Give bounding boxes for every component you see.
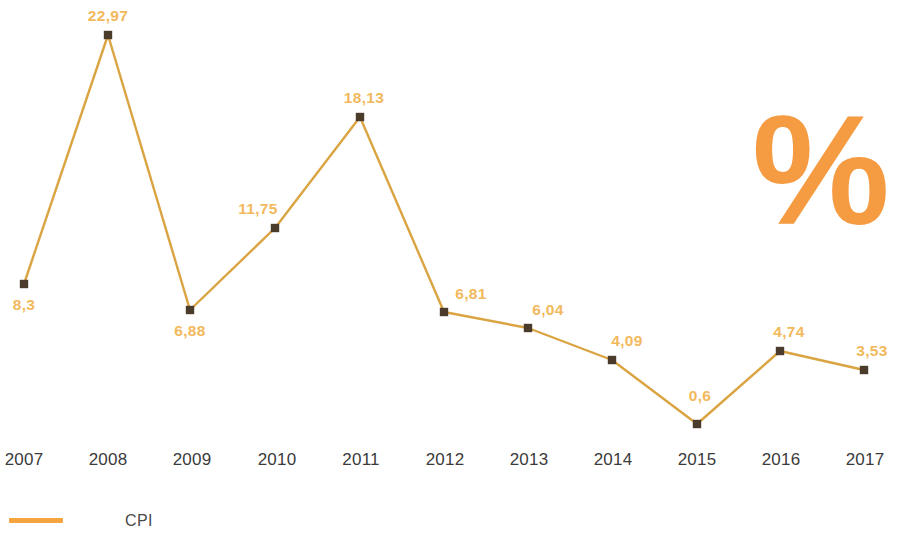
data-point-marker[interactable] [776, 347, 784, 355]
legend-label: CPI [125, 513, 153, 529]
legend-item-cpi[interactable]: CPI [0, 506, 153, 535]
cpi-series-line [24, 35, 864, 424]
data-point-marker[interactable] [693, 420, 701, 428]
data-point-value-label: 6,04 [532, 302, 563, 318]
data-point-value-label: 0,6 [689, 388, 711, 404]
data-point-value-label: 6,88 [174, 323, 205, 339]
legend-line-swatch [9, 518, 63, 523]
data-point-value-label: 22,97 [88, 8, 128, 24]
data-point-value-label: 11,75 [238, 201, 277, 217]
data-point-value-label: 4,74 [773, 324, 804, 340]
data-point-marker[interactable] [186, 306, 194, 314]
data-point-marker[interactable] [440, 308, 448, 316]
x-axis-year-label: 2010 [258, 449, 297, 470]
data-point-marker[interactable] [20, 280, 28, 288]
x-axis-year-label: 2015 [678, 449, 717, 470]
data-point-value-label: 8,3 [13, 297, 35, 313]
data-point-marker[interactable] [271, 224, 279, 232]
x-axis-year-label: 2012 [426, 449, 465, 470]
data-point-value-label: 4,09 [611, 333, 642, 349]
data-point-marker[interactable] [524, 324, 532, 332]
x-axis-year-label: 2017 [846, 449, 885, 470]
data-point-marker[interactable] [104, 31, 112, 39]
data-point-value-label: 3,53 [856, 343, 887, 359]
data-point-markers [20, 31, 868, 428]
x-axis-year-label: 2009 [173, 449, 212, 470]
data-point-value-label: 6,81 [455, 286, 486, 302]
percent-symbol-icon: % [752, 96, 902, 246]
chart-legend: CPI [0, 506, 902, 535]
x-axis-year-label: 2013 [510, 449, 549, 470]
x-axis-year-label: 2007 [5, 449, 44, 470]
x-axis-year-label: 2016 [762, 449, 801, 470]
x-axis-year-label: 2008 [89, 449, 128, 470]
x-axis-year-label: 2014 [594, 449, 633, 470]
x-axis-year-label: 2011 [342, 449, 379, 470]
data-point-marker[interactable] [608, 356, 616, 364]
cpi-line-chart: 8,322,976,8811,7518,136,816,044,090,64,7… [0, 0, 902, 535]
data-point-marker[interactable] [356, 113, 364, 121]
x-axis-labels: 2007200820092010201120122013201420152016… [0, 449, 902, 475]
data-point-marker[interactable] [860, 366, 868, 374]
data-point-value-label: 18,13 [344, 90, 384, 106]
